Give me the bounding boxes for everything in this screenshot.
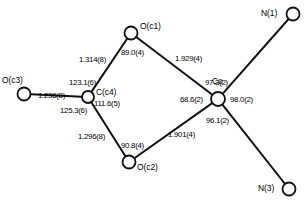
bond-line-Co-N1	[223, 19, 288, 93]
bond-angle-Cc4-Oc2-Co: 90.8(4)	[121, 142, 144, 150]
bond-angle-Oc1-Co-N1: 97.3(2)	[205, 79, 228, 87]
bond-length-Oc2-Co: 1.901(4)	[168, 131, 195, 139]
bond-line-Oc1-Co	[137, 37, 212, 94]
bond-length-Oc3-Cc4: 1.236(8)	[38, 92, 65, 100]
atom-node-Oc2	[123, 156, 136, 169]
atom-node-N3	[283, 183, 296, 196]
atom-label-Oc2: O(c2)	[137, 163, 158, 172]
bond-line-Co-N3	[223, 105, 285, 184]
bond-angle-Oc1-Co-Oc2: 68.6(2)	[180, 96, 203, 104]
bond-length-Cc4-Oc2: 1.296(8)	[78, 133, 105, 141]
atom-node-group	[18, 8, 300, 196]
atom-node-Oc1	[125, 27, 138, 40]
bond-angle-Oc1-Cc4-Oc2: 111.6(5)	[94, 100, 120, 108]
bond-angle-Oc3-Cc4-Oc2: 125.3(6)	[60, 107, 87, 115]
atom-label-Oc3: O(c3)	[2, 76, 23, 85]
atom-label-Cc4: C(c4)	[96, 88, 116, 97]
bond-line-Cc4-Oc1	[92, 39, 127, 92]
atom-label-N3: N(3)	[258, 184, 274, 193]
bond-angle-Cc4-Oc1-Co: 89.0(4)	[121, 49, 144, 57]
bond-angle-N1-Co-N3: 98.0(2)	[230, 96, 253, 104]
atom-label-N1: N(1)	[261, 9, 277, 18]
atom-node-Oc3	[18, 88, 31, 101]
atom-node-Co	[211, 92, 225, 106]
bond-length-Cc4-Oc1: 1.314(8)	[79, 56, 106, 64]
bond-angle-Oc1-Cc4-Oc3: 123.1(6)	[69, 79, 96, 87]
bond-length-Oc1-Co: 1.929(4)	[175, 55, 202, 63]
bond-angle-Oc2-Co-N3: 96.1(2)	[206, 117, 229, 125]
atom-node-N1	[287, 8, 300, 21]
atom-node-Cc4	[82, 91, 94, 103]
atom-label-Oc1: O(c1)	[140, 22, 161, 31]
structure-diagram: O(c3)C(c4)O(c1)O(c2)CoN(1)N(3)1.236(8)1.…	[0, 0, 307, 204]
